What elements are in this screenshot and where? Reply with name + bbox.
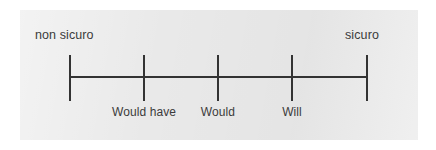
tick-label-would: Would [201, 105, 235, 119]
tick-mark-3 [291, 55, 293, 101]
tick-mark-1 [143, 55, 145, 101]
figure-root: non sicuro sicuro Would have Would Will [0, 0, 436, 150]
anchor-label-left: non sicuro [35, 28, 94, 42]
rating-scale-diagram: non sicuro sicuro Would have Would Will [0, 0, 436, 150]
tick-mark-4 [366, 55, 368, 101]
tick-mark-2 [217, 55, 219, 101]
tick-label-would-have: Would have [112, 105, 176, 119]
tick-mark-0 [69, 55, 71, 101]
anchor-label-right: sicuro [345, 28, 379, 42]
tick-label-will: Will [282, 105, 302, 119]
